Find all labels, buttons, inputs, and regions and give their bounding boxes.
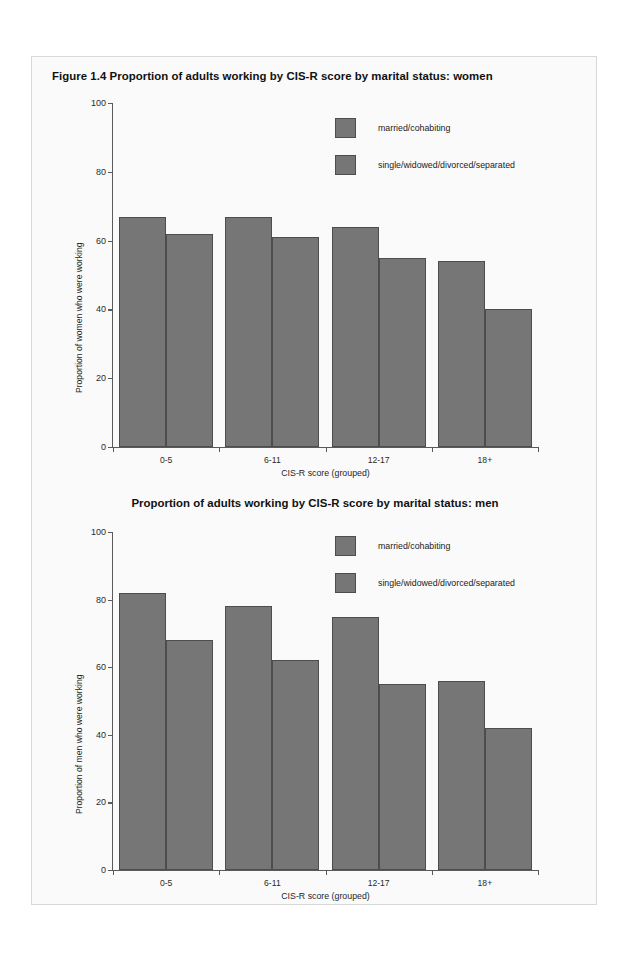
y-axis-label-men: Proportion of men who were working [74, 675, 84, 814]
x-tick [219, 447, 220, 452]
legend-label: married/cohabiting [378, 123, 450, 133]
y-axis-label-women: Proportion of women who were working [74, 243, 84, 393]
x-tick-label: 6-11 [264, 455, 281, 465]
bar-single[interactable] [272, 237, 319, 447]
legend-label: single/widowed/divorced/separated [378, 578, 515, 588]
legend-swatch-icon [335, 536, 356, 556]
legend-item-single[interactable]: single/widowed/divorced/separated [335, 573, 515, 593]
x-tick-label: 12-17 [368, 455, 390, 465]
x-tick-label: 18+ [478, 455, 493, 465]
legend-item-single[interactable]: single/widowed/divorced/separated [335, 155, 515, 175]
bar-single[interactable] [379, 258, 426, 447]
bar-single[interactable] [272, 660, 319, 870]
x-tick [113, 447, 114, 452]
bar-group [113, 532, 219, 870]
x-tick-label: 0-5 [160, 455, 172, 465]
figure-page: Figure 1.4 Proportion of adults working … [31, 56, 597, 905]
x-tick [432, 870, 433, 875]
y-tick-100: 100 [91, 98, 113, 108]
x-axis-label-women: CIS-R score (grouped) [113, 468, 538, 478]
y-tick-20: 20 [96, 797, 113, 807]
bar-group [219, 103, 325, 447]
bar-married[interactable] [119, 593, 166, 870]
y-tick-0: 0 [101, 865, 113, 875]
x-tick-label: 0-5 [160, 878, 172, 888]
y-tick-60: 60 [96, 236, 113, 246]
bar-married[interactable] [438, 261, 485, 447]
bar-married[interactable] [332, 227, 379, 447]
figure-title-men: Proportion of adults working by CIS-R sc… [32, 497, 598, 509]
legend-item-married[interactable]: married/cohabiting [335, 536, 515, 556]
bar-married[interactable] [332, 617, 379, 871]
y-tick-100: 100 [91, 527, 113, 537]
bar-married[interactable] [438, 681, 485, 870]
x-tick [538, 870, 539, 875]
x-tick [219, 870, 220, 875]
x-tick [432, 447, 433, 452]
y-tick-80: 80 [96, 167, 113, 177]
x-tick-label: 6-11 [264, 878, 281, 888]
legend-label: single/widowed/divorced/separated [378, 160, 515, 170]
legend-swatch-icon [335, 118, 356, 138]
x-axis-label-men: CIS-R score (grouped) [113, 891, 538, 901]
x-tick-label: 18+ [478, 878, 493, 888]
bar-single[interactable] [379, 684, 426, 870]
y-tick-40: 40 [96, 730, 113, 740]
legend-swatch-icon [335, 155, 356, 175]
legend-item-married[interactable]: married/cohabiting [335, 118, 515, 138]
x-tick [326, 870, 327, 875]
y-tick-60: 60 [96, 662, 113, 672]
bar-single[interactable] [485, 309, 532, 447]
chart-women: Proportion of women who were working 100… [52, 93, 562, 483]
x-tick [113, 870, 114, 875]
x-tick [326, 447, 327, 452]
bar-group [113, 103, 219, 447]
chart-men: Proportion of men who were working 100 8… [52, 522, 562, 905]
y-tick-40: 40 [96, 304, 113, 314]
x-tick [538, 447, 539, 452]
legend-label: married/cohabiting [378, 541, 450, 551]
bar-single[interactable] [166, 234, 213, 447]
y-tick-20: 20 [96, 373, 113, 383]
y-tick-80: 80 [96, 595, 113, 605]
legend-men: married/cohabiting single/widowed/divorc… [335, 536, 515, 610]
bar-group [219, 532, 325, 870]
legend-swatch-icon [335, 573, 356, 593]
y-tick-0: 0 [101, 442, 113, 452]
bar-married[interactable] [119, 217, 166, 447]
bar-married[interactable] [225, 606, 272, 870]
figure-title-women: Figure 1.4 Proportion of adults working … [52, 70, 493, 82]
bar-single[interactable] [166, 640, 213, 870]
legend-women: married/cohabiting single/widowed/divorc… [335, 118, 515, 192]
bar-single[interactable] [485, 728, 532, 870]
x-tick-label: 12-17 [368, 878, 390, 888]
bar-married[interactable] [225, 217, 272, 447]
